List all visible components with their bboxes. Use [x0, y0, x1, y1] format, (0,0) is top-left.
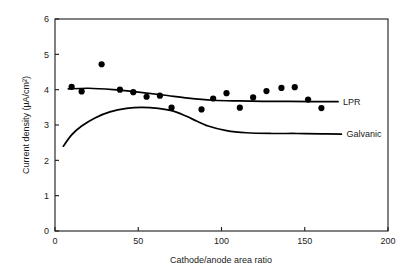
data-point	[305, 96, 311, 102]
data-point	[250, 94, 256, 100]
data-points-group	[69, 61, 325, 112]
y-tick-label: 2	[44, 156, 49, 166]
data-point	[157, 93, 163, 99]
y-tick-label: 4	[44, 85, 49, 95]
data-point	[292, 84, 298, 90]
data-point	[263, 88, 269, 94]
data-point	[198, 106, 204, 112]
data-point	[130, 89, 136, 95]
data-point	[168, 105, 174, 111]
y-tick-label: 0	[44, 226, 49, 236]
data-point	[69, 84, 75, 90]
trend-curve-galvanic	[63, 107, 341, 146]
chart-figure: 0501001502000123456 LPRGalvanic Cathode/…	[0, 0, 417, 278]
trend-curve-lpr	[68, 88, 338, 101]
chart-canvas: 0501001502000123456 LPRGalvanic Cathode/…	[0, 0, 417, 278]
y-tick-label: 3	[44, 120, 49, 130]
y-axis-title: Current density (µA/cm²)	[21, 76, 31, 174]
data-point	[143, 94, 149, 100]
data-point	[99, 61, 105, 67]
ticks-group	[55, 19, 388, 231]
series-label-lpr: LPR	[343, 97, 361, 107]
data-point	[223, 90, 229, 96]
series-labels-group: LPRGalvanic	[343, 97, 382, 140]
x-tick-label: 50	[133, 236, 143, 246]
y-tick-label: 1	[44, 191, 49, 201]
x-tick-label: 100	[214, 236, 229, 246]
data-point	[210, 95, 216, 101]
data-point	[117, 87, 123, 93]
x-tick-label: 200	[380, 236, 395, 246]
y-tick-label: 5	[44, 50, 49, 60]
trend-curves-group	[63, 88, 341, 146]
data-point	[237, 105, 243, 111]
x-axis-title: Cathode/anode area ratio	[170, 255, 272, 265]
axes-group	[55, 19, 388, 231]
data-point	[278, 85, 284, 91]
series-label-galvanic: Galvanic	[346, 129, 382, 139]
plot-frame	[55, 19, 388, 231]
y-tick-label: 6	[44, 14, 49, 24]
data-point	[79, 88, 85, 94]
data-point	[318, 105, 324, 111]
x-tick-label: 0	[52, 236, 57, 246]
x-tick-label: 150	[297, 236, 312, 246]
